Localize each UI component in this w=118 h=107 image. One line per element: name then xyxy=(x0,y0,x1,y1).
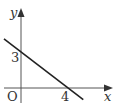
y-intercept-label: 3 xyxy=(11,50,19,65)
y-axis-label: y xyxy=(9,5,18,20)
x-intercept-label: 4 xyxy=(61,89,69,104)
x-axis-label: x xyxy=(104,89,112,104)
coordinate-diagram: y x O 3 4 xyxy=(0,0,118,107)
origin-label: O xyxy=(7,89,18,104)
y-axis-arrow-icon xyxy=(18,8,25,17)
